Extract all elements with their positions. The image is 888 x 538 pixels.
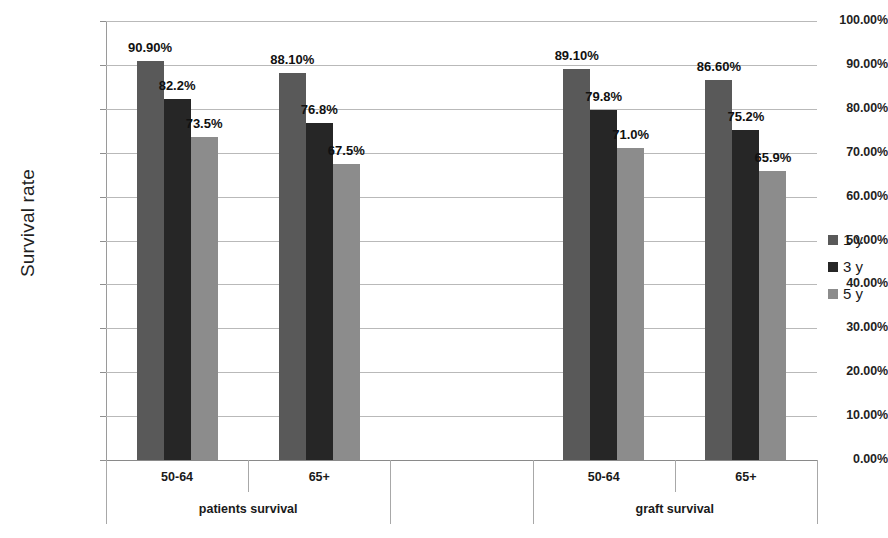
legend-swatch-icon [828, 262, 838, 272]
category-axis: 50-6465+50-6465+patients survivalgraft s… [106, 460, 818, 538]
bar [279, 73, 306, 460]
bar-value-label: 88.10% [263, 52, 322, 67]
bar [705, 80, 732, 460]
legend-swatch-icon [828, 289, 838, 299]
group-label: patients survival [106, 502, 390, 516]
group-label: graft survival [533, 502, 817, 516]
bar [191, 137, 218, 460]
category-separator [817, 460, 818, 524]
bar-value-label: 79.8% [574, 89, 633, 104]
bar [333, 164, 360, 460]
y-axis-title: Survival rate [17, 123, 39, 323]
legend-item[interactable]: 5 y [828, 280, 863, 307]
bar-value-label: 75.2% [716, 109, 775, 124]
bar [759, 171, 786, 460]
category-label: 65+ [675, 470, 817, 484]
bar-value-label: 89.10% [547, 48, 606, 63]
legend-label: 3 y [843, 258, 863, 275]
bar [563, 69, 590, 460]
gridline [106, 21, 817, 22]
bar-value-label: 71.0% [601, 127, 660, 142]
bar [732, 130, 759, 460]
bar [137, 61, 164, 460]
bar [306, 123, 333, 460]
plot-area: 90.90%82.2%73.5%88.10%76.8%67.5%89.10%79… [106, 21, 817, 460]
legend-item[interactable]: 1 y [828, 226, 863, 253]
legend-swatch-icon [828, 235, 838, 245]
bar-value-label: 90.90% [121, 40, 180, 55]
bar-value-label: 65.9% [743, 150, 802, 165]
bar-value-label: 86.60% [689, 59, 748, 74]
legend-label: 1 y [843, 231, 863, 248]
bar-value-label: 67.5% [317, 143, 376, 158]
legend: 1 y3 y5 y [828, 226, 863, 307]
legend-item[interactable]: 3 y [828, 253, 863, 280]
category-label: 50-64 [106, 470, 248, 484]
bar [590, 110, 617, 460]
category-label: 65+ [248, 470, 390, 484]
category-separator [390, 460, 391, 524]
legend-label: 5 y [843, 285, 863, 302]
bar-value-label: 82.2% [148, 78, 207, 93]
bar-chart: Survival rate 100.00%90.00%80.00%70.00%6… [0, 0, 888, 538]
bar-value-label: 76.8% [290, 102, 349, 117]
bar-value-label: 73.5% [175, 116, 234, 131]
category-label: 50-64 [533, 470, 675, 484]
bar [164, 99, 191, 460]
bar [617, 148, 644, 460]
